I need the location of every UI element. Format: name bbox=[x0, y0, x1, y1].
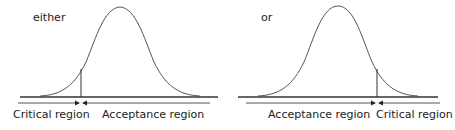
right-arrow-right-icon bbox=[371, 101, 376, 106]
right-arrow-left-icon bbox=[378, 101, 383, 106]
left-panel-title: either bbox=[33, 11, 65, 24]
right-normal-curve bbox=[258, 6, 418, 96]
left-arrow-left-icon bbox=[82, 101, 87, 106]
right-acceptance-region-label: Acceptance region bbox=[268, 108, 370, 121]
left-acceptance-region-label: Acceptance region bbox=[102, 108, 204, 121]
right-panel-title: or bbox=[261, 11, 272, 24]
right-critical-region-label: Critical region bbox=[376, 108, 453, 121]
left-arrow-right-icon bbox=[75, 101, 80, 106]
left-critical-region-label: Critical region bbox=[13, 108, 90, 121]
